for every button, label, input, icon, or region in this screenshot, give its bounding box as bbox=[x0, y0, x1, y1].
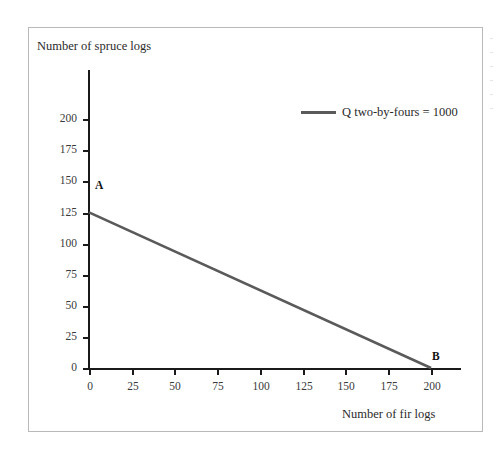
x-tick-label-125: 125 bbox=[284, 380, 324, 392]
legend-entry-label: Q two-by-fours = 1000 bbox=[342, 105, 458, 120]
x-tick-75 bbox=[217, 369, 219, 375]
x-tick-label-25: 25 bbox=[113, 380, 153, 392]
x-axis-line bbox=[89, 368, 461, 370]
data-series-line bbox=[29, 28, 484, 433]
y-tick-label-100: 100 bbox=[37, 237, 77, 249]
x-tick-label-75: 75 bbox=[198, 380, 238, 392]
x-tick-100 bbox=[260, 369, 262, 375]
x-tick-50 bbox=[174, 369, 176, 375]
x-tick-label-100: 100 bbox=[241, 380, 281, 392]
chart-legend: Q two-by-fours = 1000 bbox=[301, 105, 458, 120]
y-tick-100 bbox=[83, 244, 89, 246]
y-tick-label-25: 25 bbox=[37, 330, 77, 342]
y-tick-200 bbox=[83, 119, 89, 121]
x-tick-150 bbox=[345, 369, 347, 375]
x-tick-125 bbox=[303, 369, 305, 375]
x-tick-0 bbox=[89, 369, 91, 375]
y-tick-label-0: 0 bbox=[37, 361, 77, 373]
point-b-label: B bbox=[432, 350, 440, 362]
legend-line-swatch bbox=[301, 111, 336, 114]
x-tick-25 bbox=[132, 369, 134, 375]
x-tick-label-0: 0 bbox=[70, 380, 110, 392]
chart-frame: Number of spruce logs 200 175 150 125 10… bbox=[28, 27, 483, 432]
y-tick-175 bbox=[83, 150, 89, 152]
scan-artifact bbox=[489, 25, 495, 145]
x-tick-label-50: 50 bbox=[155, 380, 195, 392]
x-tick-label-175: 175 bbox=[369, 380, 409, 392]
y-tick-label-125: 125 bbox=[37, 206, 77, 218]
x-tick-175 bbox=[388, 369, 390, 375]
y-axis-title: Number of spruce logs bbox=[37, 39, 151, 54]
y-tick-label-175: 175 bbox=[37, 143, 77, 155]
y-tick-50 bbox=[83, 306, 89, 308]
plot-area: Number of spruce logs 200 175 150 125 10… bbox=[29, 28, 482, 431]
x-axis-title: Number of fir logs bbox=[342, 407, 435, 422]
y-tick-25 bbox=[83, 337, 89, 339]
y-tick-150 bbox=[83, 181, 89, 183]
x-tick-200 bbox=[431, 369, 433, 375]
y-tick-label-75: 75 bbox=[37, 268, 77, 280]
y-tick-label-200: 200 bbox=[37, 112, 77, 124]
x-tick-label-200: 200 bbox=[412, 380, 452, 392]
y-axis-line bbox=[88, 70, 90, 370]
x-tick-label-150: 150 bbox=[326, 380, 366, 392]
y-tick-label-150: 150 bbox=[37, 174, 77, 186]
y-tick-125 bbox=[83, 213, 89, 215]
y-tick-label-50: 50 bbox=[37, 299, 77, 311]
point-a-label: A bbox=[95, 179, 103, 191]
y-tick-75 bbox=[83, 275, 89, 277]
